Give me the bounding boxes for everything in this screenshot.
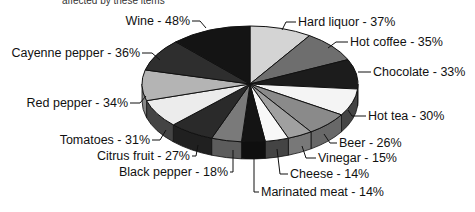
slice-label: Red pepper - 34% [27,96,128,110]
pie-chart: affected by these items Hard liquor - 37… [0,0,475,212]
slice-label: Vinegar - 15% [318,151,397,165]
slice-label: Black pepper - 18% [119,165,228,179]
chart-title: affected by these items [62,0,165,6]
slice-label: Cheese - 14% [290,167,369,181]
slice-label: Chocolate - 33% [373,65,465,79]
slice-label: Hot tea - 30% [368,109,444,123]
slice-label: Tomatoes - 31% [60,133,150,147]
slice-label: Hard liquor - 37% [298,15,395,29]
slice-label: Cayenne pepper - 36% [11,46,140,60]
slice-label: Wine - 48% [125,14,190,28]
slice-label: Hot coffee - 35% [350,35,443,49]
slice-label: Marinated meat - 14% [261,185,384,199]
slice-label: Citrus fruit - 27% [97,149,190,163]
slice-side [241,141,265,159]
leader-line [192,21,206,28]
slice-label: Beer - 26% [339,136,402,150]
pie-slices [142,26,358,142]
